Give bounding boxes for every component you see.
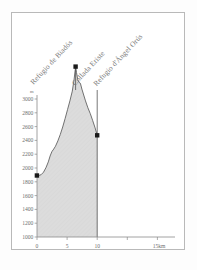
- y-tick-label: 1000: [22, 234, 33, 240]
- y-axis-unit-label: m: [30, 89, 34, 94]
- x-axis-tick-labels: 0 5 10 15km: [36, 243, 166, 249]
- y-tick-label: 1200: [22, 220, 33, 226]
- marker-biados[interactable]: [35, 173, 39, 177]
- x-axis-ticks: [37, 237, 157, 240]
- marker-collada-eriste[interactable]: [73, 64, 77, 68]
- y-tick-label: 1400: [22, 206, 33, 212]
- elevation-profile-chart: m 1000 1200 1400 1600 1800 2000 2200 240…: [0, 0, 197, 270]
- elevation-area-series: [37, 67, 97, 237]
- y-tick-label: 2000: [22, 165, 33, 171]
- x-tick-label: 0: [36, 243, 39, 249]
- y-tick-label: 2600: [22, 124, 33, 130]
- y-tick-label: 1600: [22, 193, 33, 199]
- y-axis-tick-labels: m 1000 1200 1400 1600 1800 2000 2200 240…: [22, 89, 34, 240]
- x-tick-label: 10: [94, 243, 100, 249]
- y-tick-label: 2800: [22, 110, 33, 116]
- y-tick-label: 3000: [22, 96, 33, 102]
- y-tick-label: 2400: [22, 137, 33, 143]
- poi-label-biados: Refugio de Biadós: [28, 38, 74, 86]
- elevation-profile-page: m 1000 1200 1400 1600 1800 2000 2200 240…: [0, 0, 197, 270]
- elevation-area-fill: [37, 67, 97, 237]
- marker-angel-orus[interactable]: [95, 133, 99, 137]
- y-tick-label: 2200: [22, 151, 33, 157]
- x-tick-label: 5: [66, 243, 69, 249]
- y-tick-label: 1800: [22, 179, 33, 185]
- poi-labels: Refugio de Biadós Collada Eriste Refugio…: [28, 31, 144, 88]
- x-tick-label: 15km: [153, 243, 166, 249]
